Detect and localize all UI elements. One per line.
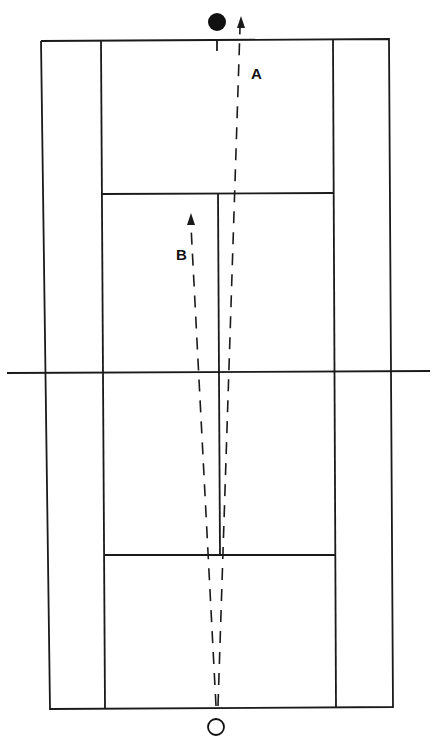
left-singles-sideline [101,41,105,709]
shot-paths [191,28,240,706]
shot-path-b [191,226,216,706]
net [7,371,430,373]
center-service-line [218,194,220,555]
shot-label-a: A [251,65,262,82]
hitter-player-icon [208,719,224,735]
tennis-court-diagram [0,0,444,755]
shot-path-a [218,28,240,706]
arrow-a-icon [237,16,245,28]
court-lines [7,39,430,709]
court-outline [41,39,393,709]
far-service-line [102,193,333,194]
shot-label-b: B [176,246,187,263]
right-singles-sideline [333,39,336,708]
arrow-b-icon [187,213,195,225]
opponent-player-icon [208,13,226,31]
